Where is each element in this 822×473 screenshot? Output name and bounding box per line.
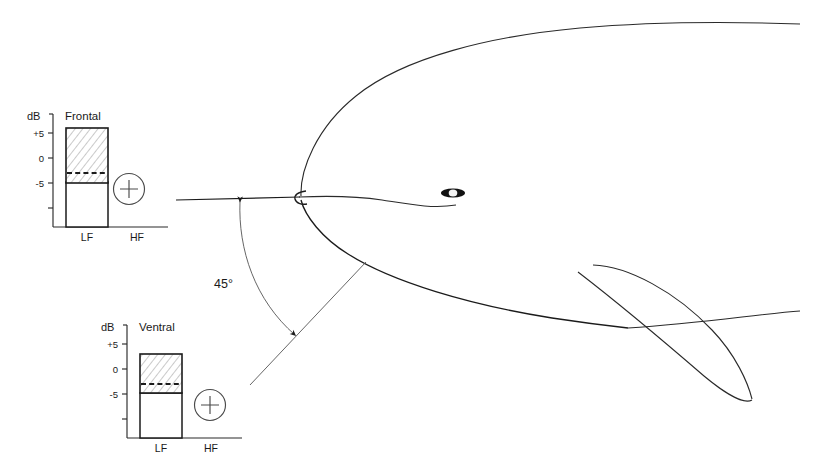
frontal-hf-marker-plus-in-circle xyxy=(114,174,145,205)
ventral-axis-unit-label: dB xyxy=(101,321,114,333)
rostrum-line xyxy=(299,196,456,206)
frontal-bar-lf-box xyxy=(66,128,108,183)
frontal-category-label-lf: LF xyxy=(81,231,93,243)
frontal-panel-title: Frontal xyxy=(65,110,101,122)
diagonal-reference-line xyxy=(250,262,366,385)
ventral-bar-lf-box xyxy=(140,354,182,393)
frontal-ytick-label-m5: -5 xyxy=(36,178,44,189)
angle-double-arrow xyxy=(240,201,295,335)
figure-canvas: 45° dB Frontal +5 0 -5 xyxy=(0,0,822,473)
ventral-hf-marker-plus-in-circle xyxy=(195,390,226,421)
ventral-panel-title: Ventral xyxy=(139,321,175,333)
eye-icon xyxy=(441,188,465,197)
figure-illustration: 45° dB Frontal +5 0 -5 xyxy=(0,0,822,473)
horizontal-reference-line xyxy=(176,197,300,200)
frontal-axis-unit-label: dB xyxy=(27,110,40,122)
frontal-ytick-label-p5: +5 xyxy=(33,128,44,139)
ventral-ytick-label-p5: +5 xyxy=(107,339,118,350)
frontal-category-label-hf: HF xyxy=(130,231,144,243)
dolphin-outline xyxy=(295,23,800,401)
frontal-ytick-label-0: 0 xyxy=(39,153,44,164)
ventral-category-label-hf: HF xyxy=(204,442,218,454)
panel-ventral: dB Ventral +5 0 -5 LF HF xyxy=(101,321,242,454)
angle-label: 45° xyxy=(214,277,233,291)
panel-frontal: dB Frontal +5 0 -5 LF HF xyxy=(27,110,168,243)
angle-annotation-group: 45° xyxy=(176,197,366,385)
dorsal-curve xyxy=(301,23,800,196)
ventral-ytick-label-0: 0 xyxy=(113,364,118,375)
ventral-ytick-label-m5: -5 xyxy=(110,389,118,400)
ventral-category-label-lf: LF xyxy=(155,442,167,454)
ventral-bar-lf-stem xyxy=(140,393,182,438)
body-lower-rear-line xyxy=(628,311,800,328)
pectoral-fin-upper-edge xyxy=(593,265,752,399)
ventral-curve xyxy=(301,200,628,328)
frontal-bar-lf-stem xyxy=(66,182,108,227)
